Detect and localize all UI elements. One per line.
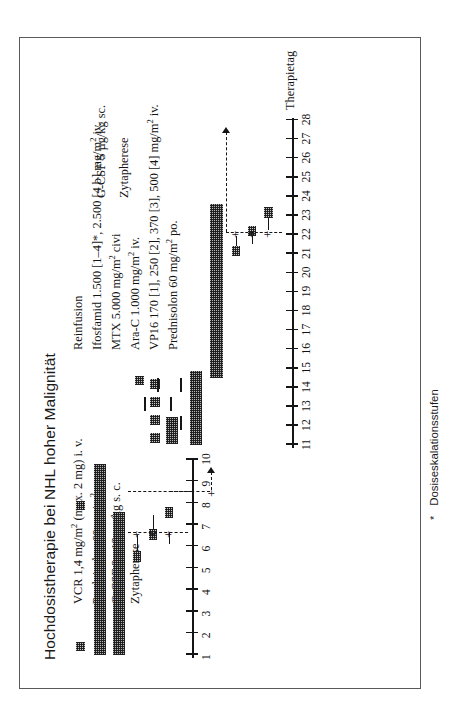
zytapherese-b1-dashed-connector (128, 532, 188, 533)
axis-1-tick-label: 7 (201, 524, 213, 530)
bar-prednisolon-block1 (94, 464, 106, 655)
block3-label-zytapherese: Zytapherese (118, 137, 130, 198)
axis-2-tick-label: 28 (301, 114, 313, 126)
axis-2-tick-label: 15 (301, 362, 313, 374)
chart-canvas: Hochdosistherapie bei NHL hoher Malignit… (20, 38, 420, 688)
axis-2-tick (286, 310, 298, 312)
bar-zytapherese-b3-3 (264, 207, 273, 218)
axis-2-tick-label: 14 (301, 381, 313, 393)
axis-2-tick-label: 23 (301, 209, 313, 221)
axis-1-tick (186, 523, 198, 525)
bar-ifosfamid-d11 (150, 433, 160, 443)
axis-2-tick-label: 27 (301, 133, 313, 145)
axis-2-tick-label: 18 (301, 305, 313, 317)
bar-gcsf-block1 (113, 512, 125, 655)
bar-reinfusion (135, 376, 144, 385)
bar-vcr-day1 (76, 642, 85, 651)
block2-label-prednisolon: Prednisolon 60 mg/m2 po. (167, 220, 179, 350)
axis-2-tick (286, 424, 298, 426)
axis-2-tick-label: 16 (301, 343, 313, 355)
dash-vp16-d13 (144, 397, 146, 411)
axis-1-line (192, 458, 194, 658)
axis-2-tick-label: 22 (301, 228, 313, 240)
axis-1-tick (186, 567, 198, 569)
axis-2-tick (286, 119, 298, 121)
block1-label-vcr: VCR 1,4 mg/m2 (max. 2 mg) i. v. (72, 438, 84, 604)
axis-2-tick (286, 405, 298, 407)
axis-2-tick (286, 386, 298, 388)
axis-2-tick-label: 24 (301, 190, 313, 202)
axis-1-tick-label: 3 (201, 611, 213, 617)
axis-2-tick-label: 20 (301, 267, 313, 279)
footnote-text: Dosiseskalationsstufen (428, 389, 440, 506)
axis-2-tick (286, 157, 298, 159)
axis-2-tick (286, 348, 298, 350)
block2-label-arac: Ara-C 1.000 mg/m2 iv. (129, 237, 141, 350)
bar-ifosfamid-d13 (150, 397, 160, 407)
axis-2-tick-label: 11 (301, 439, 313, 450)
block2-label-vp16: VP16 170 [1], 250 [2], 370 [3], 500 [4] … (148, 104, 160, 350)
axis-2-tick (286, 367, 298, 369)
zytapherese-b3-line-3 (268, 218, 269, 230)
figure-frame: Hochdosistherapie bei NHL hoher Malignit… (19, 37, 421, 689)
zytapherese-b1-line-2 (153, 515, 154, 529)
axis-2-tick (286, 272, 298, 274)
bar-prednisolon-block2 (190, 371, 202, 445)
block2-label-mtx: MTX 5.000 mg/m2 civi (110, 234, 122, 350)
bar-zytapherese-b3-1 (232, 246, 240, 256)
page-title: Hochdosistherapie bei NHL hoher Malignit… (42, 353, 58, 660)
axis-2-tick-label: 26 (301, 152, 313, 164)
axis-2-tick-label: 13 (301, 400, 313, 412)
axis-1-tick (186, 480, 198, 482)
axis-1-tick (186, 502, 198, 504)
axis-1-tick (186, 458, 198, 460)
figure-page: Hochdosistherapie bei NHL hoher Malignit… (0, 0, 456, 725)
rotated-chart-wrapper: Hochdosistherapie bei NHL hoher Malignit… (20, 38, 420, 688)
axis-1-tick-label: 5 (201, 567, 213, 573)
axis-2-tick (286, 233, 298, 235)
axis-2-tick (286, 329, 298, 331)
footnote: * Dosiseskalationsstufen (424, 389, 442, 520)
axis-1-tick-label: 1 (201, 654, 213, 660)
axis-1-tick (186, 545, 198, 547)
dash-arac-d14 (157, 378, 159, 392)
dash-vp16-d14 (180, 378, 182, 392)
zytapherese-b3-dashed-connector (226, 232, 282, 233)
continuation-dashed-line (226, 132, 227, 232)
axis-2-tick (286, 176, 298, 178)
axis-2-tick (286, 291, 298, 293)
axis-2-tick (286, 444, 298, 446)
axis-name-therapietag: Therapietag (284, 51, 296, 110)
carryover-dashed-horizontal (211, 472, 212, 490)
axis-1-tick-label: 10 (201, 453, 213, 465)
dash-arac-d13 (170, 397, 172, 411)
axis-2-tick (286, 195, 298, 197)
axis-2-tick-label: 25 (301, 171, 313, 183)
axis-1-tick (186, 654, 198, 656)
axis-1-tick-label: 6 (201, 546, 213, 552)
axis-1-tick-label: 2 (201, 633, 213, 639)
axis-1-tick-label: 4 (201, 589, 213, 595)
footnote-marker: * (428, 516, 440, 520)
axis-2-line (292, 118, 294, 448)
axis-1-tick (186, 588, 198, 590)
carryover-dashed-vertical-2 (170, 491, 210, 492)
axis-2-tick-label: 17 (301, 324, 313, 336)
bar-gcsf-block3 (210, 204, 223, 378)
axis-1-tick (186, 610, 198, 612)
axis-2-tick (286, 253, 298, 255)
axis-1-tick (186, 632, 198, 634)
bar-zytapherese-b1-3 (165, 507, 173, 518)
axis-1-tick-label: 8 (201, 502, 213, 508)
bar-ifosfamid-d12 (150, 415, 160, 425)
axis-2-tick (286, 214, 298, 216)
bar-mtx (166, 417, 178, 444)
carryover-arrowhead (207, 467, 215, 473)
bar-zytapherese-b1-1 (133, 551, 141, 562)
bar-vcr-day8 (76, 501, 85, 510)
axis-2-tick-label: 12 (301, 419, 313, 431)
axis-2-tick (286, 138, 298, 140)
block2-label-reinfusion: Reinfusion (72, 296, 84, 350)
block3-label-gcsf: G-CSF 5 µg/kg sc. (95, 105, 107, 198)
continuation-arrowhead (222, 127, 230, 133)
